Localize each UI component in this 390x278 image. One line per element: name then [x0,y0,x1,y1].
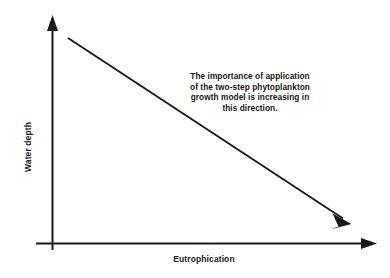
annotation-line-3: growth model is increasing in [176,92,324,103]
trend-annotation-text: The importance of application of the two… [176,71,324,113]
annotation-line-2: of the two-step phytoplankton [176,82,324,93]
annotation-line-4: this direction. [176,103,324,114]
y-axis-arrowhead-icon [47,15,58,31]
annotation-line-1: The importance of application [176,71,324,82]
x-axis-arrowhead-icon [361,238,377,249]
trend-arrow-line [68,38,343,219]
figure-canvas: Water depth Eutrophication The importanc… [0,0,390,278]
diagram-svg [0,0,390,278]
x-axis-label: Eutrophication [0,254,390,264]
y-axis-label: Water depth [23,117,33,177]
